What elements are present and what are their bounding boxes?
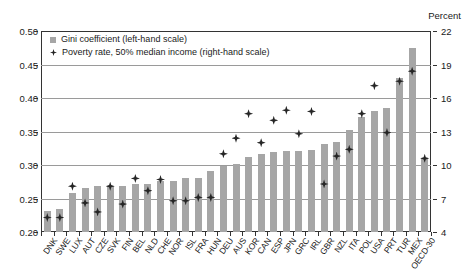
axis-unit-label: Percent: [428, 10, 461, 21]
bar: [82, 188, 89, 232]
bar: [157, 181, 164, 232]
bar: [295, 151, 302, 232]
y-tick-mark-left: [34, 65, 38, 66]
bar: [371, 111, 378, 232]
y-tick-mark-left: [34, 98, 38, 99]
y-tick-label-right: 19: [441, 59, 452, 70]
y-tick-mark-right: [433, 98, 437, 99]
y-tick-mark-right: [433, 31, 437, 32]
bar: [283, 151, 290, 232]
y-axis-left: 0.200.250.300.350.400.450.50: [0, 31, 38, 232]
y-tick-label-right: 16: [441, 93, 452, 104]
bar: [421, 158, 428, 232]
bar: [358, 117, 365, 232]
bar: [409, 48, 416, 232]
y-tick-mark-right: [433, 132, 437, 133]
bar: [107, 186, 114, 232]
bar: [270, 152, 277, 232]
bar: [383, 108, 390, 232]
gridline: [41, 98, 431, 99]
bar: [69, 193, 76, 232]
y-tick-mark-right: [433, 65, 437, 66]
y-tick-label-right: 13: [441, 126, 452, 137]
y-tick-label-right: 7: [441, 193, 446, 204]
bar: [119, 186, 126, 232]
bar: [195, 178, 202, 232]
chart-container: Percent Gini coefficient (left-hand scal…: [0, 0, 467, 278]
y-tick-mark-right: [433, 165, 437, 166]
gridline: [41, 65, 431, 66]
bar: [132, 184, 139, 232]
bar: [308, 150, 315, 232]
y-tick-label-right: 10: [441, 160, 452, 171]
x-axis-labels: DNKSWELUXAUTCZESVKFINBELNLDCHENORISLFRAH…: [41, 236, 441, 278]
y-tick-mark-left: [34, 165, 38, 166]
y-tick-label-right: 22: [441, 26, 452, 37]
y-axis-right: 471013161922: [433, 31, 463, 232]
y-tick-mark-left: [34, 132, 38, 133]
y-tick-mark-right: [433, 199, 437, 200]
y-tick-mark-left: [34, 199, 38, 200]
y-tick-mark-left: [34, 31, 38, 32]
bar: [170, 181, 177, 232]
bar: [396, 78, 403, 232]
plot-area: [41, 31, 431, 232]
bar: [245, 157, 252, 232]
y-tick-mark-right: [433, 232, 437, 233]
y-tick-mark-left: [34, 232, 38, 233]
bar: [220, 166, 227, 232]
y-tick-label-right: 4: [441, 227, 446, 238]
bar: [233, 164, 240, 232]
bar: [258, 154, 265, 232]
